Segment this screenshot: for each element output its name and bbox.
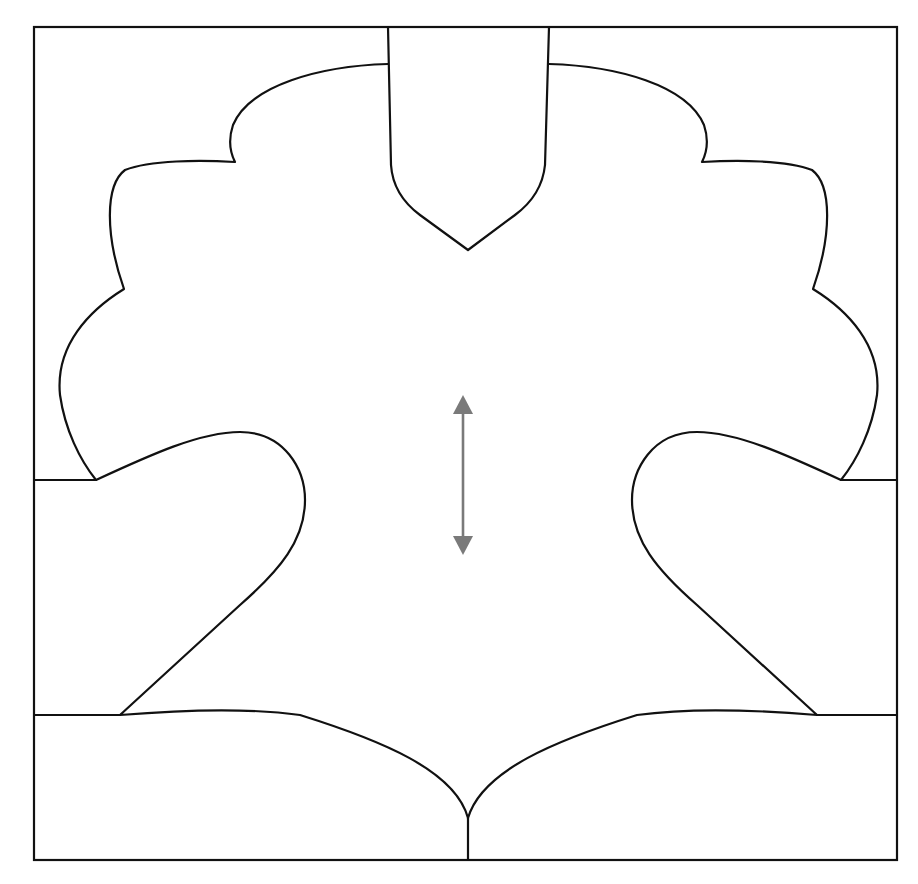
pattern-diagram (0, 0, 918, 884)
outer-frame (34, 27, 897, 860)
double-headed-arrow-icon (453, 395, 473, 555)
top-tab-shape (388, 27, 549, 250)
main-shape-left-outline (60, 64, 468, 818)
main-shape-right-outline (468, 64, 877, 818)
